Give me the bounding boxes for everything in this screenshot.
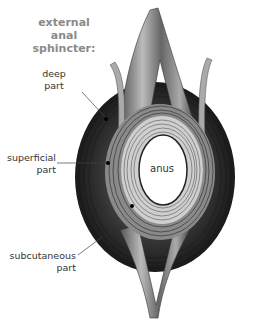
superficial-part-dot <box>106 161 110 165</box>
label-subcutaneous-part: subcutaneous part <box>4 250 76 274</box>
label-deep-part: deep part <box>28 68 80 92</box>
label-subcutaneous-line2: part <box>4 262 76 274</box>
label-superficial-part: superficial part <box>4 152 56 176</box>
label-deep-line2: part <box>28 80 80 92</box>
title-line-1: external anal <box>24 16 104 42</box>
label-deep-line1: deep <box>28 68 80 80</box>
label-subcutaneous-line1: subcutaneous <box>4 250 76 262</box>
diagram-title: external anal sphincter: <box>24 16 104 55</box>
label-superficial-line2: part <box>4 164 56 176</box>
subcutaneous-part-dot <box>130 204 134 208</box>
title-line-2: sphincter: <box>24 42 104 55</box>
label-anus: anus <box>150 163 174 174</box>
label-superficial-line1: superficial <box>4 152 56 164</box>
deep-part-dot <box>104 117 108 121</box>
